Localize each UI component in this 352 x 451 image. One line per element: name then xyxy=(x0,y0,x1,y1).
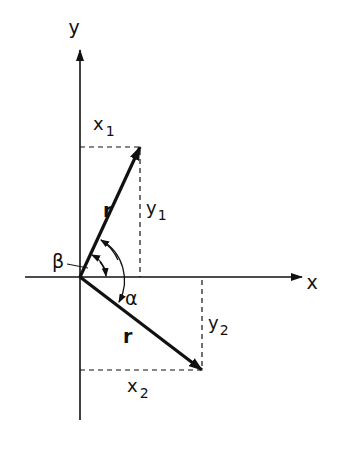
vector1-label: r xyxy=(103,199,113,221)
beta-label: β xyxy=(52,250,64,272)
vector2-label: r xyxy=(123,325,133,347)
x2-label: x2 xyxy=(127,375,149,401)
y2-label: y2 xyxy=(208,312,229,338)
x-axis-label: x xyxy=(306,271,317,293)
y1-label: y1 xyxy=(146,197,167,223)
x1-label: x1 xyxy=(93,113,115,139)
alpha-label: α xyxy=(125,287,138,309)
vector-rotation-diagram: y x r r β α x1 y1 y2 x2 xyxy=(0,0,352,451)
beta-angle-arc xyxy=(92,255,106,274)
vector-r2 xyxy=(80,277,202,370)
alpha-angle-arc-back xyxy=(101,240,118,260)
y-axis-label: y xyxy=(68,16,79,38)
